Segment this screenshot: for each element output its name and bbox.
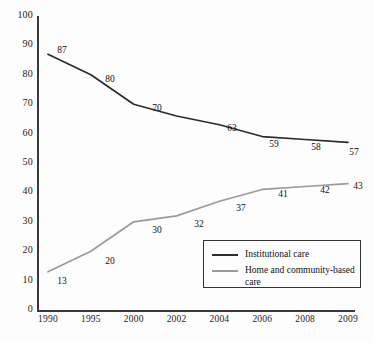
data-point-label: 43 [353, 181, 363, 191]
data-point-label: 58 [311, 142, 321, 152]
y-axis-line [37, 16, 39, 311]
x-axis-tick-label: 2000 [124, 314, 144, 324]
series-layer [0, 0, 374, 342]
chart-legend: Institutional care Home and community-ba… [203, 240, 361, 288]
x-axis-tick-label: 2009 [338, 314, 358, 324]
data-point-label: 87 [57, 45, 67, 55]
data-point-label: 80 [105, 74, 115, 84]
data-point-label: 41 [278, 189, 288, 199]
x-axis-line [37, 310, 355, 312]
x-axis-tick-label: 2008 [295, 314, 315, 324]
data-point-label: 20 [105, 256, 115, 266]
data-point-label: 57 [349, 147, 359, 157]
series-line-institutional-care [48, 54, 348, 142]
data-point-label: 59 [269, 139, 279, 149]
data-point-label: 13 [57, 276, 67, 286]
legend-swatch-icon [212, 270, 238, 272]
x-axis-tick-label: 1995 [81, 314, 101, 324]
data-point-label: 32 [194, 219, 204, 229]
legend-entry-home-and-community-based-care: Home and community-based care [212, 265, 355, 288]
data-point-label: 70 [152, 103, 162, 113]
legend-entry-label: Institutional care [245, 249, 309, 261]
x-axis-tick-label: 2002 [167, 314, 187, 324]
scan-noise-overlay [0, 0, 374, 342]
legend-entry-institutional-care: Institutional care [212, 249, 309, 261]
line-chart: 1009080706050403020100 19901995200020022… [0, 0, 374, 342]
data-point-label: 30 [152, 225, 162, 235]
legend-entry-label: Home and community-based care [245, 265, 355, 288]
data-point-label: 42 [320, 185, 330, 195]
data-point-label: 37 [236, 203, 246, 213]
legend-swatch-icon [212, 254, 238, 256]
x-axis-tick-label: 2004 [210, 314, 230, 324]
data-point-label: 63 [227, 123, 237, 133]
x-axis-tick-label: 2006 [252, 314, 272, 324]
x-axis-tick-label: 1990 [38, 314, 58, 324]
